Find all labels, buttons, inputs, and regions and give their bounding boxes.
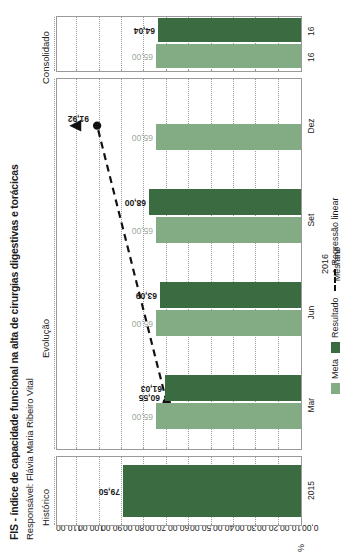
chart-subtitle: Responsável: Flávia Maria Ribeiro Vital [24,20,35,540]
gridline [54,457,55,525]
x-tick-label: 16 [306,53,316,62]
bar-resultado [160,283,301,309]
legend-item-meta: Meta [330,359,340,394]
legend-item-resultado: Resultado [330,297,340,353]
x-tick-label: Set [306,214,316,227]
regression-value-label: 91,92 [68,115,89,125]
section-caption-evolucao: Evolução [40,319,51,358]
bar-meta [156,404,301,430]
gridline [54,79,55,449]
gridline [76,457,77,525]
legend-label-meta: Meta [330,359,340,379]
legend-label-resultado: Resultado [330,297,340,338]
bar-resultado [158,18,301,42]
section-caption-consolidado: Consolidado [40,31,51,84]
y-axis-label: % [296,544,306,552]
x-tick-label: Mar [306,398,316,413]
panel-historico: 79,50 [56,456,302,526]
bar-meta [156,311,301,337]
x-tick-label: Jun [306,306,316,320]
y-axis: 110,00100,0090,0080,0070,0060,0050,0040,… [56,526,302,554]
bar-resultado [123,465,301,517]
bar-meta [156,44,301,68]
legend-dashed-line-icon [334,269,336,291]
bar-value-label: 65,00 [131,52,152,62]
legend-item-regressao: Regressão linear [330,197,340,291]
gridline [121,457,122,525]
bar-value-label: 65,00 [131,134,152,144]
bar-resultado [165,376,301,402]
regression-value-label: 60,55 [138,394,159,404]
bar-meta [156,125,301,151]
bar-value-label: 65,00 [131,413,152,423]
section-caption-historico: Histórico [40,489,51,526]
x-tick-label: Dez [306,118,316,133]
legend-label-regressao: Regressão linear [330,197,340,265]
bar-value-label: 65,00 [131,227,152,237]
panel-consolidado: 65,0064,04 [56,16,302,72]
bar-value-label: 65,00 [131,320,152,330]
page-title: FIS - índice de capacidade funcional na … [8,20,20,540]
panel-evolucao: 65,0061,0365,0063,0965,0068,0065,0060,55… [56,78,302,450]
chart-header: FIS - índice de capacidade funcional na … [8,20,35,540]
x-tick-label: 16 [306,27,316,36]
chart-rotation-wrapper: FIS - índice de capacidade funcional na … [0,0,360,554]
y-tick-label: 0,00 [302,523,319,533]
bar-value-label: 68,00 [125,199,146,209]
bar-meta [156,218,301,244]
bar-resultado [149,190,301,216]
chart-legend: Meta Resultado Regressão linear [330,197,340,394]
gridline [121,17,122,71]
gridline [76,17,77,71]
legend-swatch-resultado-icon [331,342,340,353]
bar-value-label: 63,09 [136,292,157,302]
bar-value-label: 64,04 [134,26,155,36]
bar-value-label: 79,50 [99,487,120,497]
gridline [99,17,100,71]
chart-figure: FIS - índice de capacidade funcional na … [0,0,360,554]
regression-point [93,121,101,129]
legend-swatch-meta-icon [331,383,340,394]
x-axis-group-year: 2016 [320,78,330,450]
gridline [54,17,55,71]
x-tick-label: 2015 [306,481,316,500]
